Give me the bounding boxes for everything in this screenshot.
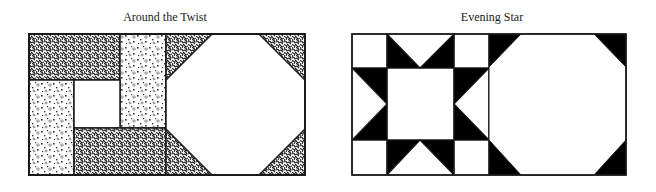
- figure-title: Around the Twist: [0, 10, 330, 25]
- figure-evening-star: Evening Star: [328, 0, 656, 192]
- figure-around-the-twist: Around the Twist: [0, 0, 330, 192]
- figure-title: Evening Star: [328, 10, 656, 25]
- quilt-illustration-evening-star: [351, 33, 627, 176]
- around-the-twist-block: [29, 34, 166, 175]
- snowball-octagon-block: [166, 34, 305, 175]
- snowball-octagon-block: [489, 34, 626, 175]
- quilt-illustration-around-the-twist: [28, 33, 306, 176]
- evening-star-block: [352, 34, 489, 175]
